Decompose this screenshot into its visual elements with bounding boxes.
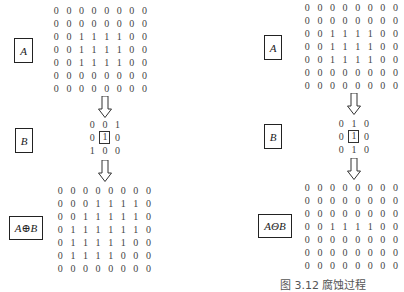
matrix-cell: 0 xyxy=(130,236,143,249)
matrix-cell: 0 xyxy=(67,210,80,223)
matrix-cell: 0 xyxy=(117,184,130,197)
matrix-cell: 0 xyxy=(126,56,139,69)
matrix-cell: 0 xyxy=(301,66,314,79)
matrix-cell: 0 xyxy=(377,194,390,207)
caption-right: 图 3.12 腐蚀过程 xyxy=(280,276,367,292)
label-AdilB: A⊕B xyxy=(9,216,43,240)
matrix-cell: 0 xyxy=(301,40,314,53)
matrix-cell: 0 xyxy=(301,259,314,272)
matrix-cell: 0 xyxy=(326,246,339,259)
matrix-cell: 1 xyxy=(67,236,80,249)
arrow-down-icon xyxy=(347,158,361,180)
matrix-cell: 0 xyxy=(351,246,364,259)
matrix-cell: 0 xyxy=(389,246,402,259)
matrix-cell: 0 xyxy=(301,207,314,220)
matrix-cell: 0 xyxy=(364,207,377,220)
matrix-cell: 0 xyxy=(314,40,327,53)
matrix-cell: 0 xyxy=(100,17,113,30)
matrix-cell: 0 xyxy=(54,223,67,236)
matrix-cell: 0 xyxy=(63,43,76,56)
matrix-cell: 0 xyxy=(126,17,139,30)
matrix-cell: 0 xyxy=(360,130,373,143)
matrix-cell: 0 xyxy=(364,194,377,207)
matrix-cell: 1 xyxy=(364,220,377,233)
matrix-cell: 0 xyxy=(301,181,314,194)
matrix-cell: 0 xyxy=(50,17,63,30)
matrix-cell: 0 xyxy=(314,207,327,220)
matrix-cell: 0 xyxy=(63,4,76,17)
matrix-cell: 0 xyxy=(364,181,377,194)
matrix-cell: 1 xyxy=(88,30,101,43)
matrix-cell: 0 xyxy=(104,262,117,275)
matrix-cell: 0 xyxy=(351,1,364,14)
matrix-cell: 0 xyxy=(63,56,76,69)
matrix-cell: 0 xyxy=(351,194,364,207)
matrix-cell: 0 xyxy=(50,69,63,82)
matrix-cell: 1 xyxy=(88,56,101,69)
matrix-cell: 1 xyxy=(348,117,361,130)
matrix-cell: 0 xyxy=(54,236,67,249)
matrix-cell: 0 xyxy=(314,233,327,246)
matrix-cell: 0 xyxy=(314,259,327,272)
matrix-cell: 0 xyxy=(339,1,352,14)
matrix-cell: 1 xyxy=(75,30,88,43)
matrix-cell: 0 xyxy=(301,194,314,207)
matrix-cell: 0 xyxy=(377,40,390,53)
matrix-cell: 0 xyxy=(117,262,130,275)
matrix-cell: 0 xyxy=(389,40,402,53)
matrix-cell: 0 xyxy=(138,69,151,82)
matrix-cell: 0 xyxy=(130,262,143,275)
matrix-cell: 1 xyxy=(67,249,80,262)
matrix-cell: 0 xyxy=(63,30,76,43)
matrix-cell: 0 xyxy=(314,1,327,14)
matrix-cell: 1 xyxy=(364,53,377,66)
matrix-cell: 0 xyxy=(364,66,377,79)
matrix-cell: 0 xyxy=(100,82,113,95)
matrix-cell: 0 xyxy=(301,53,314,66)
matrix-cell: 0 xyxy=(67,262,80,275)
matrix-cell: 0 xyxy=(130,249,143,262)
matrix-cell: 1 xyxy=(326,220,339,233)
matrix-cell: 1 xyxy=(351,220,364,233)
matrix-cell: 0 xyxy=(389,259,402,272)
label-B-left: B xyxy=(15,128,33,153)
matrix-cell: 0 xyxy=(75,69,88,82)
matrix-cell: 0 xyxy=(389,27,402,40)
matrix-cell: 0 xyxy=(100,69,113,82)
matrix-cell: 0 xyxy=(301,1,314,14)
matrix-cell: 0 xyxy=(364,1,377,14)
matrix-cell: 1 xyxy=(92,249,105,262)
matrix-cell: 0 xyxy=(335,143,348,156)
arrow-down-icon xyxy=(98,160,112,182)
matrix-cell: 0 xyxy=(138,30,151,43)
matrix-cell: 0 xyxy=(92,184,105,197)
matrix-cell: 0 xyxy=(314,181,327,194)
matrix-cell: 1 xyxy=(104,210,117,223)
matrix-cell: 0 xyxy=(335,130,348,143)
matrix-cell: 0 xyxy=(88,17,101,30)
matrix-cell: 0 xyxy=(389,181,402,194)
matrix-cell: 1 xyxy=(67,223,80,236)
matrix-cell: 1 xyxy=(111,118,124,131)
matrix-cell: 0 xyxy=(75,82,88,95)
matrix-cell: 0 xyxy=(360,143,373,156)
matrix-cell: 0 xyxy=(99,144,112,157)
matrix-cell: 0 xyxy=(75,4,88,17)
matrix-cell: 0 xyxy=(351,233,364,246)
matrix-cell: 0 xyxy=(142,236,155,249)
matrix-cell: 1 xyxy=(100,30,113,43)
matrix-cell: 0 xyxy=(377,27,390,40)
matrix-cell: 0 xyxy=(111,144,124,157)
matrix-cell: 1 xyxy=(92,236,105,249)
label-B-right: B xyxy=(264,124,282,149)
matrix-cell: 0 xyxy=(99,118,112,131)
matrix-cell: 0 xyxy=(326,181,339,194)
matrix-cell: 1 xyxy=(326,27,339,40)
matrix-cell: 0 xyxy=(351,66,364,79)
matrix-cell: 0 xyxy=(314,66,327,79)
matrix-cell: 0 xyxy=(301,233,314,246)
matrix-cell: 1 xyxy=(113,43,126,56)
matrix-cell: 0 xyxy=(377,259,390,272)
matrix-cell: 0 xyxy=(88,4,101,17)
matrix-cell: 0 xyxy=(130,184,143,197)
